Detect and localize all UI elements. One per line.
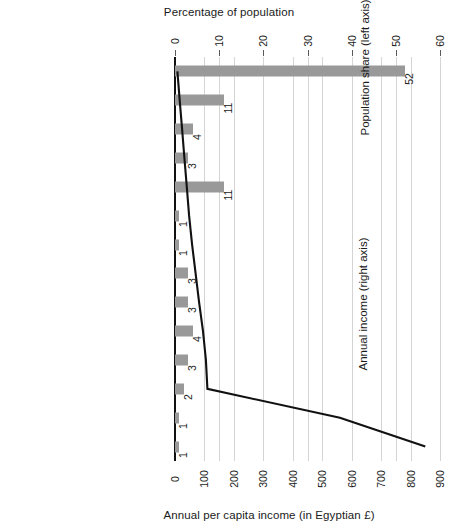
chart-row: Under-proletariat1 [0, 201, 458, 230]
population-share-bar [175, 441, 179, 452]
population-share-bar [175, 383, 184, 394]
chart-row: Entrepreneurs/trade3 [0, 346, 458, 375]
chart-container: Percentage of population 0102030405060 0… [0, 0, 458, 525]
chart-row: Middle-level salaried2 [0, 374, 458, 403]
bottom-axis-tick-700: 700 [368, 466, 394, 492]
chart-row: Bourgeoisie1 [0, 432, 458, 461]
bottom-axis-title: Annual per capita income (in Egyptian £) [80, 509, 458, 521]
top-axis-tick-30: 30 [297, 30, 319, 52]
population-share-legend-line2: (left axis) [358, 0, 370, 46]
chart-row: Proletariat3 [0, 259, 458, 288]
bar-value-label: 1 [183, 446, 189, 464]
chart-row: Own less than 1 feddan4 [0, 115, 458, 144]
top-axis-title: Percentage of population [0, 6, 458, 18]
population-share-bar [175, 326, 193, 337]
bottom-axis-tick-300: 300 [250, 466, 276, 492]
annual-income-legend-line2: (right axis) [357, 238, 369, 292]
population-share-bar [175, 210, 179, 221]
bottom-axis-tick-600: 600 [339, 466, 365, 492]
population-share-bar [175, 124, 193, 135]
top-axis-tick-0: 0 [164, 30, 186, 52]
bottom-axis-tick-0: 0 [162, 466, 188, 492]
population-share-bar [175, 95, 224, 106]
chart-row: Domestic employees3 [0, 144, 458, 173]
annual-income-legend: Annual income (right axis) [323, 324, 403, 337]
chart-row: Own 1–5 feddans11 [0, 172, 458, 201]
top-axis-tickmark [308, 50, 309, 56]
top-axis-tick-20: 20 [252, 30, 274, 52]
population-share-legend-line1: Population share [358, 49, 370, 135]
population-share-bar [175, 152, 188, 163]
annual-income-legend-line1: Annual income [357, 294, 369, 370]
population-share-bar [175, 354, 188, 365]
population-share-bar [175, 239, 179, 250]
chart-row: Own 5–20 feddans3 [0, 288, 458, 317]
population-share-bar [175, 181, 224, 192]
top-axis-tickmark [352, 50, 353, 56]
top-axis-tickmark [219, 50, 220, 56]
chart-row: Traditional wage earners1 [0, 230, 458, 259]
bottom-axis-tick-500: 500 [309, 466, 335, 492]
top-axis-tick-60: 60 [429, 30, 451, 52]
population-share-bar [175, 412, 179, 423]
top-axis-tickmark [440, 50, 441, 56]
top-axis-tickmark [263, 50, 264, 56]
bottom-axis-tick-900: 900 [427, 466, 453, 492]
bottom-axis-tick-100: 100 [191, 466, 217, 492]
chart-row: Own more than 20 feddans1 [0, 403, 458, 432]
bottom-axis-tick-400: 400 [280, 466, 306, 492]
top-axis-tick-10: 10 [208, 30, 230, 52]
chart-row: Landless peasants52 [0, 57, 458, 86]
population-share-legend: Population share (left axis) [325, 89, 405, 102]
top-axis-tick-50: 50 [385, 30, 407, 52]
top-axis-tickmark [175, 50, 176, 56]
bottom-axis-tick-200: 200 [221, 466, 247, 492]
top-axis-tickmark [396, 50, 397, 56]
bottom-axis-tick-800: 800 [398, 466, 424, 492]
